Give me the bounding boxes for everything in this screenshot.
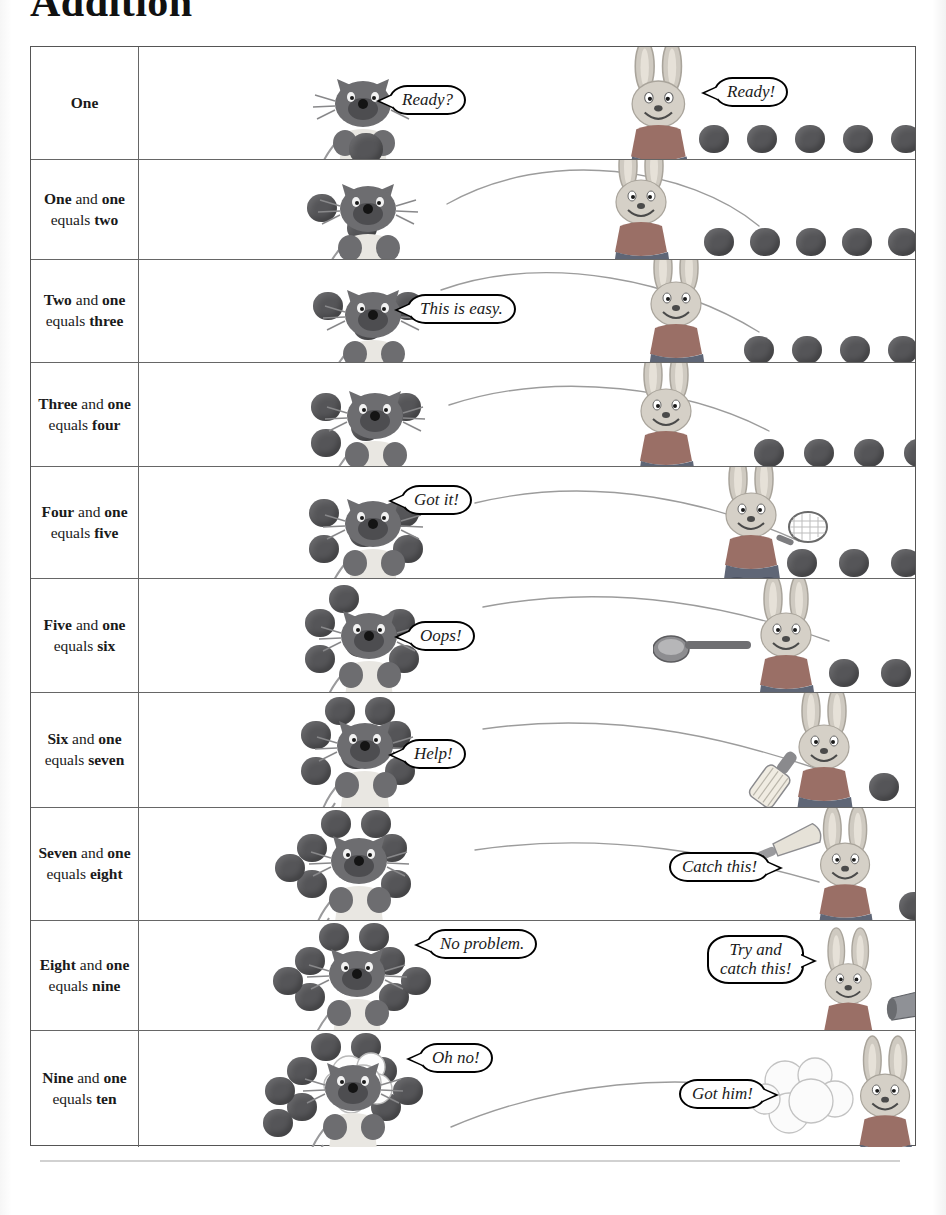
page-title: Addition xyxy=(30,0,193,26)
table-row: Three and one equals four xyxy=(31,363,915,467)
ball xyxy=(904,439,915,466)
ball xyxy=(747,125,777,153)
table-row: Eight and one equals nine xyxy=(31,921,915,1031)
row-label-text: Eight and one equals nine xyxy=(35,955,134,997)
cat-speech-bubble: This is easy. xyxy=(407,294,516,324)
ball xyxy=(744,336,774,362)
row-scene: No problem.Try and catch this! xyxy=(139,921,915,1030)
ball xyxy=(899,892,915,920)
table-row: Two and one equals three xyxy=(31,260,915,363)
ball xyxy=(843,125,873,153)
rabbit-speech-bubble: Catch this! xyxy=(669,852,770,882)
row-label-text: Four and one equals five xyxy=(35,502,134,544)
row-label-cell: Six and one equals seven xyxy=(31,693,139,807)
ball xyxy=(891,125,915,153)
row-label-text: Two and one equals three xyxy=(35,290,134,332)
row-label-text: Five and one equals six xyxy=(35,615,134,657)
ball xyxy=(273,967,303,995)
row-scene: Got it! xyxy=(139,467,915,578)
rabbit-speech-bubble: Try and catch this! xyxy=(707,935,804,984)
rabbit-character xyxy=(629,260,725,362)
ball xyxy=(792,336,822,362)
addition-table: One xyxy=(30,46,916,1146)
loose-ball-row xyxy=(704,228,915,256)
row-label-text: One xyxy=(71,93,99,114)
row-scene: Oops! xyxy=(139,579,915,692)
rabbit-speech-bubble: Ready! xyxy=(714,77,788,107)
ball xyxy=(795,125,825,153)
row-label-cell: One and one equals two xyxy=(31,160,139,259)
row-label-cell: Five and one equals six xyxy=(31,579,139,692)
row-scene: This is easy. xyxy=(139,260,915,362)
cat-character xyxy=(314,182,424,259)
table-row: One and one equals two xyxy=(31,160,915,260)
row-label-cell: Four and one equals five xyxy=(31,467,139,578)
loose-ball-row xyxy=(754,439,915,466)
loose-ball-row xyxy=(699,125,915,153)
cat-speech-bubble: Oops! xyxy=(407,621,475,651)
rabbit-prop-cricket-bat xyxy=(741,747,815,807)
table-row: Seven and one equals eight xyxy=(31,808,915,921)
rabbit-character xyxy=(619,363,715,466)
cat-speech-bubble: No problem. xyxy=(427,929,537,959)
ball xyxy=(349,133,383,159)
ball xyxy=(754,439,784,466)
ball xyxy=(750,228,780,256)
rabbit-prop-cannon-fired xyxy=(913,1079,915,1147)
table-row: Six and one equals seven xyxy=(31,693,915,808)
cat-speech-bubble: Got it! xyxy=(401,485,472,515)
cat-character xyxy=(303,947,413,1030)
row-scene: Oh no!Got him! xyxy=(139,1031,915,1147)
cat-character xyxy=(315,609,425,692)
ball xyxy=(842,228,872,256)
ball xyxy=(275,854,305,882)
ball xyxy=(804,439,834,466)
rabbit-character xyxy=(609,47,710,159)
row-label-cell: Nine and one equals ten xyxy=(31,1031,139,1147)
row-scene: Help! xyxy=(139,693,915,807)
row-label-cell: Eight and one equals nine xyxy=(31,921,139,1030)
row-label-text: One and one equals two xyxy=(35,189,134,231)
scan-bottom-line xyxy=(40,1160,900,1162)
table-row: Five and one equals six xyxy=(31,579,915,693)
rabbit-character xyxy=(739,579,835,692)
loose-ball-row xyxy=(829,659,915,687)
ball xyxy=(796,228,826,256)
cat-character xyxy=(299,1061,409,1147)
row-label-text: Seven and one equals eight xyxy=(35,843,134,885)
ball xyxy=(888,336,915,362)
rabbit-prop-tennis-racket xyxy=(776,509,830,559)
ball xyxy=(891,549,915,577)
row-label-cell: Two and one equals three xyxy=(31,260,139,362)
row-scene: Catch this! xyxy=(139,808,915,920)
ball xyxy=(840,336,870,362)
loose-ball-row xyxy=(899,892,915,920)
row-scene: Ready?Ready! xyxy=(139,47,915,159)
loose-ball-row xyxy=(744,336,915,362)
ball xyxy=(881,659,911,687)
ball xyxy=(263,1109,293,1137)
table-row: One xyxy=(31,47,915,160)
row-label-cell: Three and one equals four xyxy=(31,363,139,466)
cat-character xyxy=(321,389,431,466)
cat-speech-bubble: Ready? xyxy=(389,85,466,115)
rabbit-character xyxy=(594,160,690,259)
ball xyxy=(265,1077,295,1105)
ball xyxy=(854,439,884,466)
row-scene xyxy=(139,160,915,259)
loose-ball-row xyxy=(869,773,915,801)
row-label-text: Three and one equals four xyxy=(35,394,134,436)
cat-speech-bubble: Help! xyxy=(401,739,466,769)
rabbit-prop-cannon xyxy=(879,971,915,1030)
cat-character xyxy=(305,834,415,920)
cat-speech-bubble: Oh no! xyxy=(419,1043,493,1073)
row-scene xyxy=(139,363,915,466)
ball xyxy=(704,228,734,256)
row-label-cell: Seven and one equals eight xyxy=(31,808,139,920)
rabbit-prop-ladle xyxy=(653,627,753,673)
table-row: Four and one equals five xyxy=(31,467,915,579)
ball xyxy=(869,773,899,801)
row-label-text: Nine and one equals ten xyxy=(35,1068,134,1110)
ball xyxy=(839,549,869,577)
ball xyxy=(888,228,915,256)
